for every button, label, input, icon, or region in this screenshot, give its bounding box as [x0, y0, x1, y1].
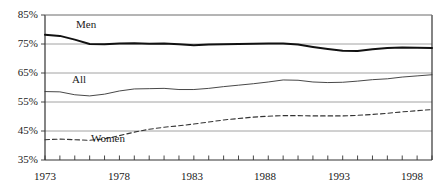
gridlines	[45, 15, 432, 131]
x-tick-label: 1988	[245, 171, 285, 182]
series-label-men: Men	[76, 19, 96, 30]
chart-plot-area	[0, 0, 446, 189]
y-tick-label: 35%	[0, 154, 38, 165]
y-tick-label: 45%	[0, 125, 38, 136]
x-tick-label: 1983	[172, 171, 212, 182]
x-tick-label: 1973	[25, 171, 65, 182]
y-tick-label: 75%	[0, 38, 38, 49]
series-label-all: All	[72, 74, 86, 85]
data-series	[45, 35, 432, 141]
x-tick-label: 1998	[392, 171, 432, 182]
x-tick-label: 1993	[319, 171, 359, 182]
x-tick-label: 1978	[99, 171, 139, 182]
series-label-women: Women	[91, 133, 125, 144]
line-chart: 85% 75% 65% 55% 45% 35% 1973 1978 1983 1…	[0, 0, 446, 189]
y-tick-label: 65%	[0, 67, 38, 78]
y-tick-label: 55%	[0, 96, 38, 107]
y-tick-label: 85%	[0, 9, 38, 20]
